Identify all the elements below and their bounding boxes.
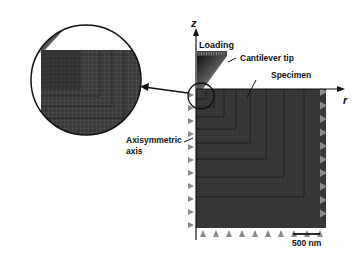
constraint-triangle [188, 118, 194, 124]
specimen-mesh [196, 89, 326, 228]
r-axis-label: r [343, 94, 348, 106]
constraint-triangle [265, 230, 271, 237]
constraint-triangle [188, 222, 194, 228]
magnify-arrow [140, 83, 188, 93]
constraint-triangle [252, 230, 258, 237]
constraint-triangle [226, 230, 232, 237]
constraint-triangle [188, 209, 194, 215]
axis-leader-line [184, 138, 193, 142]
constraint-triangle [188, 144, 194, 150]
constraint-triangle [188, 183, 194, 189]
constraint-triangle [278, 230, 284, 237]
z-axis-label: z [190, 17, 197, 29]
constraint-triangle [188, 196, 194, 202]
constraint-triangle [188, 170, 194, 176]
tip-leader-line [228, 58, 236, 62]
constraint-triangle [239, 230, 245, 237]
axisymmetric-axis-label-line1: Axisymmetric [126, 135, 182, 145]
constraint-triangle [188, 131, 194, 137]
specimen-label: Specimen [271, 70, 311, 80]
constraint-triangle [200, 230, 206, 237]
loading-label: Loading [199, 40, 234, 50]
axisymmetric-axis-label-line2: axis [126, 146, 143, 156]
cantilever-tip-label: Cantilever tip [240, 53, 294, 63]
scale-bar-label: 500 nm [292, 238, 322, 248]
constraint-triangle [188, 157, 194, 163]
inset-constraint-triangle [28, 108, 41, 124]
fem-model-diagram: z r Loading Cantilever tip Specimen Axis… [0, 0, 361, 256]
z-arrowhead [193, 28, 199, 36]
r-arrowhead [337, 86, 345, 92]
constraint-triangle [213, 230, 219, 237]
zoom-inset [28, 14, 142, 140]
